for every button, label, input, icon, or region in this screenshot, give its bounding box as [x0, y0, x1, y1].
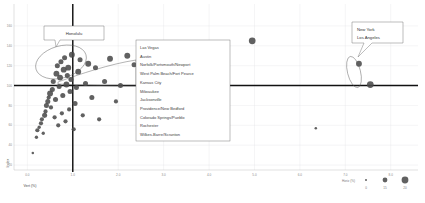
data-point[interactable] — [65, 65, 71, 71]
scatter-plot-canvas: Honolulu New York Los Angeles Las VegasA… — [0, 0, 425, 203]
data-point[interactable] — [118, 83, 123, 88]
city-list-item: Kansas City — [140, 80, 161, 85]
data-point[interactable] — [102, 79, 107, 84]
city-list-item: Wilkes-Barre/Scranton — [140, 132, 180, 137]
data-point[interactable] — [89, 95, 94, 100]
data-point[interactable] — [39, 121, 43, 125]
legend-size-label: 0 — [365, 186, 367, 190]
data-point[interactable] — [40, 117, 44, 121]
x-tick-label: 1.0 — [71, 173, 76, 177]
legend-size-label: 20 — [403, 186, 407, 190]
data-point[interactable] — [60, 111, 64, 115]
legend-size-dot — [402, 177, 409, 184]
x-tick-label: 0.0 — [25, 173, 30, 177]
y-tick-label: 60 — [9, 123, 13, 127]
data-point[interactable] — [42, 113, 47, 118]
y-tick-label: 40 — [9, 143, 13, 147]
y-tick-label: 100 — [7, 84, 12, 88]
data-point[interactable] — [55, 63, 60, 68]
callout-honolulu[interactable]: Honolulu — [44, 26, 104, 47]
data-point[interactable] — [107, 56, 113, 62]
x-tick-label: 4.0 — [207, 173, 212, 177]
data-point[interactable] — [85, 61, 91, 67]
y-tick-label: 80 — [9, 104, 13, 108]
data-point[interactable] — [69, 52, 75, 58]
data-point[interactable] — [315, 127, 318, 130]
legend-horiz-pct[interactable]: Horiz (%) 01520 — [342, 177, 408, 190]
city-list-item: West Palm Beach/Fort Pearce — [140, 71, 195, 76]
legend-size-dot — [365, 179, 367, 181]
x-axis-tick-labels: 0.01.02.03.04.05.06.07.08.0 — [25, 173, 393, 177]
x-tick-label: 6.0 — [298, 173, 303, 177]
data-point[interactable] — [60, 93, 65, 98]
y-axis-title: Index — [6, 158, 10, 167]
callout-metro-line2: Los Angeles — [357, 35, 380, 40]
y-axis-tick-labels: 16014012010080604020 — [7, 24, 12, 167]
x-tick-label: 8.0 — [389, 173, 394, 177]
data-point[interactable] — [37, 126, 40, 129]
data-point[interactable] — [51, 79, 56, 84]
y-tick-label: 120 — [7, 64, 12, 68]
city-list-callout[interactable]: Las VegasAustinNorfolk/Portsmouth/Newpor… — [136, 40, 230, 141]
data-point[interactable] — [56, 123, 60, 127]
data-point[interactable] — [50, 87, 55, 92]
data-point[interactable] — [42, 132, 45, 135]
data-point[interactable] — [57, 75, 63, 81]
data-point[interactable] — [114, 99, 118, 103]
data-point[interactable] — [72, 127, 76, 131]
city-list-item: Colorado Springs/Pueblo — [140, 115, 185, 120]
legend-size-marks: 01520 — [365, 177, 408, 190]
bubble-chart-root: Honolulu New York Los Angeles Las VegasA… — [0, 0, 425, 203]
data-point[interactable] — [53, 115, 57, 119]
legend-title: Horiz (%) — [342, 179, 355, 183]
callout-metro-line1: New York — [357, 27, 376, 32]
x-tick-label: 7.0 — [343, 173, 348, 177]
x-tick-label: 5.0 — [252, 173, 257, 177]
legend-size-label: 15 — [383, 186, 387, 190]
data-point[interactable] — [45, 99, 50, 104]
city-list-item: Austin — [140, 54, 151, 59]
city-list-item: Rochester — [140, 123, 159, 128]
data-point[interactable] — [67, 107, 71, 111]
data-point[interactable] — [58, 59, 63, 64]
data-point[interactable] — [53, 97, 58, 102]
data-point[interactable] — [68, 89, 73, 94]
right-metro-lasso — [344, 55, 364, 89]
data-point[interactable] — [57, 84, 62, 89]
y-tick-label: 160 — [7, 24, 12, 28]
x-tick-label: 3.0 — [161, 173, 166, 177]
y-tick-label: 140 — [7, 44, 12, 48]
data-point[interactable] — [62, 55, 67, 60]
legend-size-dot — [383, 178, 388, 183]
data-point[interactable] — [73, 101, 78, 106]
data-point[interactable] — [78, 57, 83, 62]
city-list-item: Norfolk/Portsmouth/Newport — [140, 62, 191, 67]
data-point[interactable] — [63, 119, 67, 123]
city-list-item: Jacksonville — [140, 97, 162, 102]
callout-new-york-los-angeles[interactable]: New York Los Angeles — [352, 22, 403, 57]
data-point[interactable] — [43, 109, 47, 113]
data-point[interactable] — [249, 37, 256, 44]
data-point[interactable] — [124, 53, 130, 59]
city-list-lasso — [58, 60, 136, 86]
city-list-item: Providence/New Bedford — [140, 106, 184, 111]
city-list-item: Las Vegas — [140, 45, 159, 50]
callout-honolulu-label: Honolulu — [66, 31, 83, 36]
x-axis-title: Vert (%) — [24, 184, 37, 188]
x-tick-label: 2.0 — [116, 173, 121, 177]
data-point[interactable] — [81, 113, 85, 117]
city-list-item: Milwaukee — [140, 89, 160, 94]
data-point[interactable] — [35, 136, 38, 139]
data-point[interactable] — [74, 85, 79, 90]
data-point[interactable] — [367, 81, 374, 88]
data-point[interactable] — [49, 105, 53, 109]
data-point[interactable] — [32, 152, 35, 155]
data-point[interactable] — [97, 117, 101, 121]
